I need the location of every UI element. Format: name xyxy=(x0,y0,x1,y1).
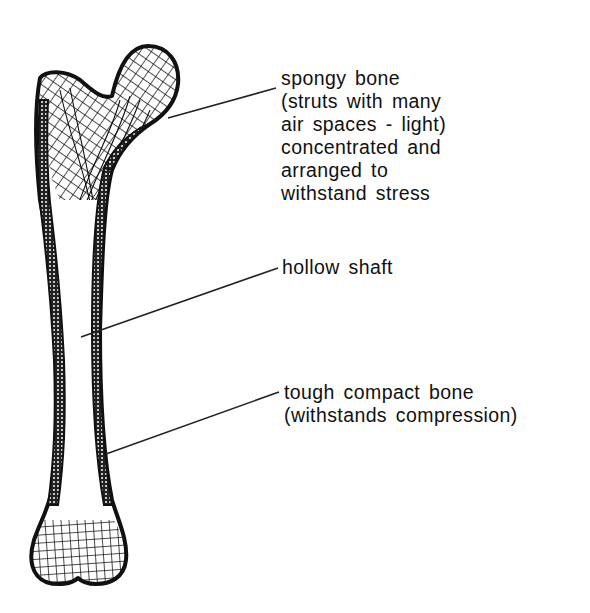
label-line: hollow shaft xyxy=(282,256,393,279)
label-line: concentrated and xyxy=(281,136,446,159)
leader-hollow-shaft xyxy=(81,268,278,337)
label-line: (withstands compression) xyxy=(284,404,518,427)
label-line: arranged to xyxy=(281,159,446,182)
label-compact-bone: tough compact bone (withstands compressi… xyxy=(284,381,518,427)
label-line: spongy bone xyxy=(281,67,446,90)
leader-spongy-bone xyxy=(168,88,276,118)
label-line: (struts with many xyxy=(281,90,446,113)
label-line: tough compact bone xyxy=(284,381,518,404)
label-line: air spaces - light) xyxy=(281,113,446,136)
label-spongy-bone: spongy bone (struts with many air spaces… xyxy=(281,67,446,205)
leader-compact-bone xyxy=(106,392,279,454)
label-hollow-shaft: hollow shaft xyxy=(282,256,393,279)
label-line: withstand stress xyxy=(281,182,446,205)
